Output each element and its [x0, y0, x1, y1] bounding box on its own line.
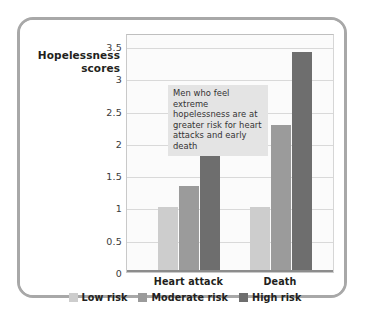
legend-label: Moderate risk: [151, 292, 228, 303]
bar: [179, 186, 199, 272]
bar: [271, 125, 291, 272]
legend-item[interactable]: Moderate risk: [138, 292, 228, 303]
legend-swatch-icon: [239, 293, 248, 302]
y-axis-tick-labels: 00.511.522.533.5: [86, 34, 122, 273]
bar: [158, 207, 178, 272]
annotation-line-4: attacks and early death: [173, 130, 264, 151]
y-axis-tick-label: 3: [88, 74, 122, 85]
y-axis-tick-label: 2.5: [88, 106, 122, 117]
legend-swatch-icon: [69, 293, 78, 302]
annotation-line-3: greater risk for heart: [173, 120, 264, 131]
legend-label: High risk: [252, 292, 301, 303]
x-axis-category-label: Death: [230, 276, 330, 287]
annotation-line-1: Men who feel extreme: [173, 88, 264, 109]
legend-label: Low risk: [82, 292, 128, 303]
x-axis-category-label: Heart attack: [138, 276, 238, 287]
plot-area: Men who feel extreme hopelessness are at…: [126, 34, 334, 273]
y-axis-tick-label: 0.5: [88, 235, 122, 246]
x-axis-baseline: [127, 270, 333, 272]
legend-swatch-icon: [138, 293, 147, 302]
legend-item[interactable]: Low risk: [69, 292, 128, 303]
gridline: [127, 48, 333, 49]
x-axis-category-labels: Heart attackDeath: [126, 276, 334, 290]
y-axis-tick-label: 2: [88, 138, 122, 149]
legend-item[interactable]: High risk: [239, 292, 301, 303]
chart-legend: Low riskModerate riskHigh risk: [20, 292, 350, 303]
annotation-line-2: hopelessness are at: [173, 109, 264, 120]
y-axis-tick-label: 0: [88, 268, 122, 279]
annotation-callout: Men who feel extreme hopelessness are at…: [168, 85, 268, 156]
y-axis-tick-label: 1.5: [88, 171, 122, 182]
bar: [292, 52, 312, 272]
y-axis-tick-label: 1: [88, 203, 122, 214]
figure-inner: Hopelessness scores 00.511.522.533.5 Men…: [20, 20, 344, 295]
bar: [250, 207, 270, 272]
figure-frame: Hopelessness scores 00.511.522.533.5 Men…: [17, 17, 347, 298]
y-axis-tick-label: 3.5: [88, 41, 122, 52]
